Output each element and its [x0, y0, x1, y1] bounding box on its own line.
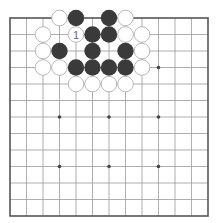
white-stone [118, 27, 134, 43]
white-stone [118, 10, 134, 26]
star-point [157, 165, 161, 169]
white-stone-icon [35, 60, 51, 76]
star-point [58, 165, 62, 169]
black-stone-icon [68, 59, 84, 75]
white-stone [134, 60, 150, 76]
star-point [157, 115, 161, 119]
white-stone-icon [68, 76, 84, 92]
black-stone-icon [84, 59, 100, 75]
white-stone [35, 27, 51, 43]
white-stone-icon [118, 10, 134, 26]
white-stone-icon [134, 60, 150, 76]
black-stone-icon [51, 43, 67, 59]
black-stone [101, 26, 117, 42]
white-stone-icon [52, 60, 68, 76]
black-stone [84, 26, 100, 42]
white-stone-icon [101, 76, 117, 92]
white-stone [101, 76, 117, 92]
black-stone [68, 59, 84, 75]
black-stone [51, 43, 67, 59]
white-stone [68, 76, 84, 92]
white-stone [52, 10, 68, 26]
go-board[interactable]: 1 [0, 0, 217, 223]
black-stone-icon [101, 26, 117, 42]
white-stone-icon [134, 43, 150, 59]
white-stone: 1 [68, 27, 84, 43]
white-stone [85, 76, 101, 92]
black-stone [68, 10, 84, 26]
white-stone [134, 43, 150, 59]
star-point [107, 115, 111, 119]
black-stone [84, 59, 100, 75]
white-stone-icon [35, 27, 51, 43]
black-stone-icon [117, 59, 133, 75]
black-stone [101, 59, 117, 75]
white-stone [118, 76, 134, 92]
move-number-label: 1 [73, 29, 79, 41]
black-stone [117, 59, 133, 75]
white-stone [35, 60, 51, 76]
black-stone-icon [117, 43, 133, 59]
black-stone-icon [101, 59, 117, 75]
black-stone [117, 43, 133, 59]
white-stone-icon [134, 27, 150, 43]
white-stone [134, 27, 150, 43]
black-stone [101, 10, 117, 26]
white-stone-icon [52, 10, 68, 26]
star-point [157, 66, 161, 70]
star-point [107, 165, 111, 169]
black-stone [84, 43, 100, 59]
black-stone-icon [101, 10, 117, 26]
star-point [58, 115, 62, 119]
black-stone-icon [84, 43, 100, 59]
white-stone-icon [85, 76, 101, 92]
white-stone-icon [118, 76, 134, 92]
black-stone-icon [84, 26, 100, 42]
white-stone-icon [118, 27, 134, 43]
black-stone-icon [68, 10, 84, 26]
white-stone [35, 43, 51, 59]
white-stone [52, 60, 68, 76]
white-stone-icon [35, 43, 51, 59]
